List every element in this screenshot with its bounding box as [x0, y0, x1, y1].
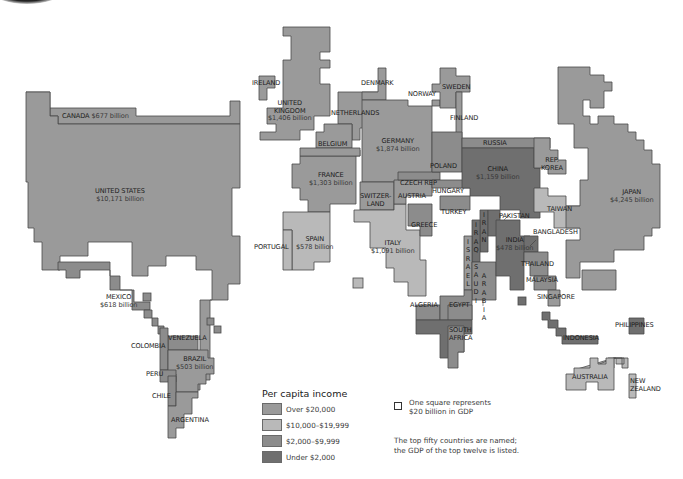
label-japan: JAPAN$4,245 billion [610, 189, 654, 204]
label-hungary: HUNGARY [432, 188, 464, 196]
legend-label: Under $2,000 [286, 453, 335, 462]
legend-item: $10,000–$19,999 [262, 417, 349, 433]
label-netherlands: NETHERLANDS [331, 110, 379, 118]
label-indonesia: INDONESIA [563, 335, 599, 343]
label-sweden: SWEDEN [442, 84, 470, 92]
label-united-states: UNITED STATES$10,171 billion [95, 188, 145, 203]
label-turkey: TURKEY [441, 209, 466, 217]
legend-swatch-over-20000 [262, 403, 282, 415]
scale-note: One square represents $20 billion in GDP [394, 398, 491, 416]
label-thailand: THAILAND [521, 261, 554, 269]
label-israel: I S R A E L [464, 238, 472, 288]
legend-label: Over $20,000 [286, 405, 335, 414]
label-china: CHINA$1,159 billion [476, 166, 520, 181]
label-malaysia: MALAYSIA [526, 277, 558, 285]
label-australia: AUSTRALIA [572, 374, 608, 382]
region-caribbean-2 [214, 326, 221, 333]
scale-note-text: One square represents $20 billion in GDP [409, 398, 491, 416]
region-sri-lanka [518, 297, 526, 305]
region-hong-kong [582, 270, 616, 290]
label-italy: ITALY$1,091 billion [371, 240, 415, 255]
region-japan[interactable] [558, 67, 660, 278]
legend: Per capita income Over $20,000 $10,000–$… [262, 388, 349, 465]
label-canada: CANADA $677 billion [62, 113, 129, 121]
label-iraq: I R A Q [472, 221, 480, 255]
square-unit-icon [394, 402, 402, 410]
label-chile: CHILE [152, 393, 171, 401]
label-austria: AUSTRIA [398, 193, 426, 201]
label-taiwan: TAIWAN [547, 206, 572, 214]
label-united-kingdom: UNITEDKINGDOM$1,406 billion [268, 100, 312, 123]
label-portugal: PORTUGAL [254, 244, 289, 252]
region-chile[interactable] [168, 376, 176, 406]
region-china[interactable] [462, 148, 540, 218]
legend-swatch-2000-9999 [262, 435, 282, 447]
label-germany: GERMANY$1,874 billion [376, 138, 420, 153]
label-argentina: ARGENTINA [171, 417, 209, 425]
legend-label: $10,000–$19,999 [286, 421, 349, 430]
legend-swatch-under-2000 [262, 451, 282, 463]
label-poland: POLAND [430, 163, 457, 171]
label-singapore: SINGAPORE [537, 294, 575, 302]
label-france: FRANCE$1,303 billion [309, 172, 353, 187]
label-ireland: IRELAND [252, 80, 280, 88]
legend-item: Over $20,000 [262, 401, 349, 417]
label-saudi: S A U D I [472, 263, 480, 305]
label-arabia: A R A B I A [480, 272, 488, 322]
label-india: INDIA$478 billion [496, 237, 533, 252]
label-venezuela: VENEZUELA [168, 335, 207, 343]
label-norway: NORWAY [408, 91, 436, 99]
region-caribbean-1 [207, 318, 214, 325]
label-philippines: PHILIPPINES [615, 322, 654, 330]
label-colombia: COLOMBIA [131, 343, 165, 351]
legend-swatch-10000-19999 [262, 419, 282, 431]
region-france-north [300, 148, 360, 156]
label-belgium: BELGIUM [318, 141, 347, 149]
region-norway[interactable] [432, 100, 440, 106]
label-south-africa: SOUTHAFRICA [449, 327, 472, 342]
label-greece: GREECE [411, 222, 437, 230]
label-rep-korea: REP.KOREA [541, 157, 563, 172]
region-mexico-island [143, 293, 151, 301]
legend-label: $2,000–$9,999 [286, 437, 340, 446]
label-pakistan: PAKISTAN [499, 213, 530, 221]
label-algeria: ALGERIA [410, 302, 438, 310]
label-finland: FINLAND [450, 115, 478, 123]
label-iran: I R A N [480, 211, 488, 245]
label-peru: PERU [146, 371, 163, 379]
label-mexico: MEXICO$618 billion [100, 294, 137, 309]
label-spain: SPAIN$578 billion [296, 236, 333, 251]
label-switzerland: SWITZER-LAND [360, 193, 391, 208]
label-new-zealand: NEWZEALAND [630, 378, 661, 393]
legend-item: $2,000–$9,999 [262, 433, 349, 449]
legend-item: Under $2,000 [262, 449, 349, 465]
label-brazil: BRAZIL$503 billion [176, 356, 213, 371]
label-denmark: DENMARK [361, 80, 394, 88]
label-egypt: EGYPT [449, 302, 469, 310]
label-russia: RUSSIA [483, 140, 507, 148]
naming-note: The top fifty countries are named; the G… [394, 436, 519, 455]
region-sicily [353, 278, 363, 288]
label-bangladesh: BANGLADESH [533, 229, 578, 237]
legend-title: Per capita income [262, 388, 349, 399]
